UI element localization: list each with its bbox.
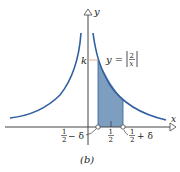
x-axis-label: x xyxy=(171,114,176,124)
k-label: k xyxy=(81,55,87,66)
tick-right-num: 1 xyxy=(130,128,134,136)
y-axis-label: y xyxy=(93,6,100,17)
tick-left-suffix: − δ xyxy=(68,131,84,141)
equation-numerator: 2 xyxy=(130,52,134,60)
tick-left-den: 2 xyxy=(62,136,66,144)
open-point-right xyxy=(121,125,125,129)
tick-right: 1 2 + δ xyxy=(129,128,153,144)
tick-right-suffix: + δ xyxy=(137,131,153,141)
equation-lhs: y = xyxy=(105,54,123,65)
left-curve xyxy=(10,33,81,118)
open-point-left xyxy=(96,125,100,129)
tick-right-den: 2 xyxy=(130,136,134,144)
tick-left: 1 2 − δ xyxy=(61,128,84,144)
equation-denominator: x xyxy=(130,60,134,68)
figure-caption: (b) xyxy=(80,154,94,165)
tick-center: 1 2 xyxy=(108,128,114,144)
graph: k y x y = 2 x 1 2 − δ 1 2 1 2 + δ (b) xyxy=(0,0,180,172)
tick-center-den: 2 xyxy=(109,136,113,144)
x-arrow-icon xyxy=(170,123,176,131)
tick-left-num: 1 xyxy=(62,128,66,136)
y-arrow-icon xyxy=(84,9,92,15)
pointer-right xyxy=(124,130,128,135)
tick-center-num: 1 xyxy=(109,128,113,136)
